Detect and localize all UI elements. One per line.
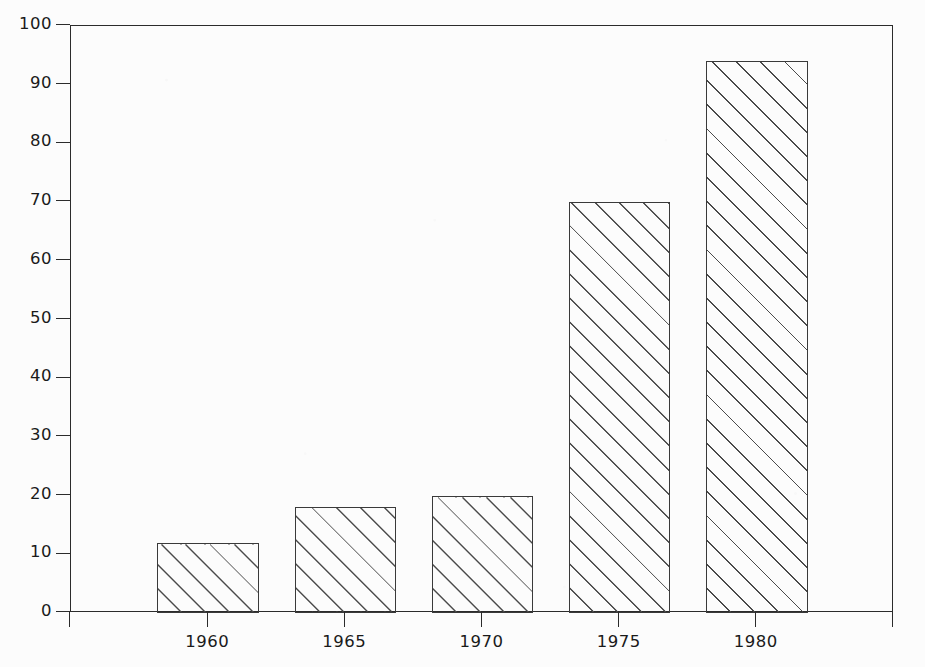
y-axis-tick-label: 80: [8, 133, 52, 150]
x-axis-tick: [69, 612, 70, 627]
y-axis-tick-label: 90: [8, 75, 52, 92]
bar-1980: [706, 61, 808, 613]
x-axis-tick: [344, 612, 345, 627]
x-axis-tick: [755, 612, 756, 627]
y-axis-tick-label: 50: [8, 310, 52, 327]
y-axis-tick-label: 60: [8, 251, 52, 268]
y-axis-tick: [56, 83, 70, 84]
y-axis-tick-label: 0: [8, 603, 52, 620]
y-axis-tick: [56, 318, 70, 319]
y-axis-tick: [56, 377, 70, 378]
y-axis-tick: [56, 24, 70, 25]
y-axis-tick-label: 20: [8, 486, 52, 503]
y-axis-tick: [56, 200, 70, 201]
y-axis-tick: [56, 494, 70, 495]
bar-1970: [432, 496, 534, 613]
bar-1960: [157, 543, 259, 613]
plot-frame: [70, 25, 893, 612]
chart-page: 0102030405060708090100 19601965197019751…: [0, 0, 925, 667]
y-axis-tick-label: 70: [8, 192, 52, 209]
y-axis-tick-label: 30: [8, 427, 52, 444]
x-axis-tick: [481, 612, 482, 627]
x-axis-tick: [618, 612, 619, 627]
x-axis-tick-label: 1965: [294, 634, 394, 651]
y-axis-tick: [56, 435, 70, 436]
y-axis-tick: [56, 553, 70, 554]
y-axis-tick-label: 40: [8, 368, 52, 385]
y-axis-label-group: 0102030405060708090100: [0, 0, 52, 667]
bar-1975: [569, 202, 671, 613]
y-axis-tick-label: 100: [8, 16, 52, 33]
y-axis-tick-label: 10: [8, 544, 52, 561]
y-axis-tick: [56, 259, 70, 260]
x-axis-tick-label: 1975: [569, 634, 669, 651]
y-axis-tick: [56, 142, 70, 143]
x-axis-tick-label: 1980: [706, 634, 806, 651]
bar-1965: [295, 507, 397, 613]
x-axis-tick-label: 1960: [157, 634, 257, 651]
x-axis-tick-label: 1970: [432, 634, 532, 651]
x-axis-tick: [207, 612, 208, 627]
y-axis-tick: [56, 611, 70, 612]
x-axis-tick: [892, 612, 893, 627]
